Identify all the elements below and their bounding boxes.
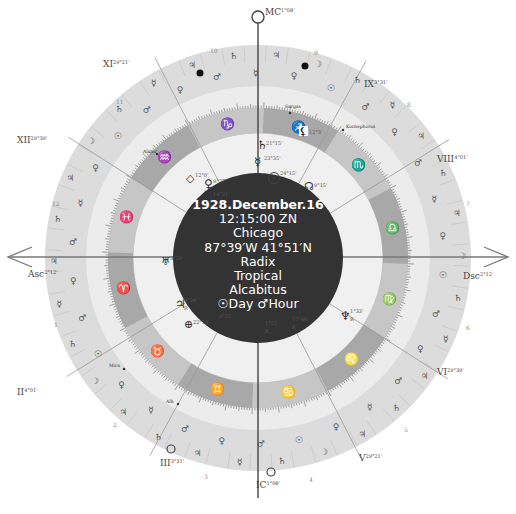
chart-type: Radix (173, 255, 343, 269)
outer-glyph: ♀ (417, 344, 424, 354)
svg-text:Kornephoros: Kornephoros (346, 124, 376, 129)
house-cusp-label-vi: VI29°39' (436, 367, 464, 377)
outer-glyph: ☿ (237, 457, 243, 467)
outer-glyph: ♃ (120, 407, 128, 417)
outer-glyph: ♂ (414, 158, 422, 168)
outer-glyph: ☉ (295, 435, 303, 445)
outer-glyph: ♀ (92, 163, 99, 173)
outer-glyph: ☽ (320, 447, 328, 457)
svg-text:Alh: Alh (165, 399, 174, 404)
outer-glyph: ♀ (439, 231, 446, 241)
outer-glyph: ♀ (177, 85, 184, 95)
outer-glyph: ♃ (188, 60, 196, 70)
outer-glyph: ♃ (358, 429, 366, 439)
house-number-2: 2 (113, 421, 117, 428)
outer-glyph: ♂ (143, 105, 151, 115)
svg-text:Mira: Mira (109, 363, 120, 368)
outer-glyph: ☉ (327, 83, 335, 93)
outer-glyph: ♄ (69, 339, 77, 349)
chart-place: Chicago (173, 226, 343, 240)
outer-glyph: ♃ (66, 173, 74, 183)
chart-date: 1928.December.16 (173, 198, 343, 212)
svg-text:12°3': 12°3' (309, 129, 322, 135)
svg-text:R: R (292, 324, 296, 330)
svg-text:9°15': 9°15' (219, 313, 232, 319)
house-cusp-label-xii: XII29°39' (17, 135, 47, 145)
sign-glyph-virgo: ♍ (382, 292, 397, 306)
svg-text:⚸: ⚸ (299, 125, 307, 138)
house-cusp-label-v: V29°21' (358, 453, 382, 463)
outer-glyph: ♀ (291, 71, 298, 81)
outer-glyph: ♀ (219, 436, 226, 446)
sign-glyph-libra: ♎ (385, 221, 400, 235)
outer-glyph: ☿ (367, 402, 373, 412)
outer-glyph: ☽ (91, 376, 99, 386)
outer-glyph: ♄ (439, 168, 447, 178)
outer-glyph: ♃ (194, 448, 202, 458)
outer-glyph: ☽ (458, 251, 466, 261)
outer-glyph: ♄ (454, 293, 462, 303)
house-number-11: 11 (116, 98, 124, 105)
sign-glyph-aries: ♈ (116, 281, 131, 295)
outer-glyph: ☿ (443, 334, 449, 344)
house-number-4: 4 (309, 476, 313, 483)
svg-text:1°22': 1°22' (265, 320, 278, 326)
house-number-8: 8 (407, 101, 411, 108)
svg-text:R: R (350, 316, 354, 322)
svg-text:Alnair: Alnair (142, 149, 158, 154)
outer-glyph: ♀ (70, 276, 77, 286)
outer-glyph: ♃ (417, 131, 425, 141)
svg-text:Sargas: Sargas (285, 104, 301, 109)
outer-glyph: ♂ (361, 102, 369, 112)
outer-glyph: ♃ (421, 371, 429, 381)
house-number-3: 3 (204, 473, 208, 480)
outer-glyph: ☉ (439, 270, 447, 280)
svg-text:⊕: ⊕ (184, 318, 193, 331)
outer-glyph: ☉ (114, 131, 122, 141)
outer-glyph: ♄ (278, 456, 286, 466)
sign-glyph-gemini: ♊ (210, 382, 225, 396)
outer-glyph: ♃ (272, 50, 280, 60)
outer-glyph: ♂ (181, 424, 189, 434)
mc-marker-icon (252, 11, 264, 23)
outer-glyph: ♄ (393, 403, 401, 413)
chart-info-panel: 1928.December.16 12:15:00 ZN Chicago 87°… (173, 198, 343, 312)
house-cusp-label-iii: III3°31' (160, 458, 184, 468)
house-number-5: 5 (404, 426, 408, 433)
sign-glyph-cancer: ♋ (281, 385, 296, 399)
house-number-7: 7 (466, 200, 470, 207)
sign-glyph-aquarius: ♒ (157, 150, 172, 164)
outer-glyph: ♂ (394, 376, 402, 386)
chart-day-hour: ☉Day ♂Hour (173, 297, 343, 311)
svg-text:◇: ◇ (186, 172, 195, 185)
outer-glyph: ♀ (391, 127, 398, 137)
svg-text:22°18': 22°18' (193, 319, 210, 325)
chart-time: 12:15:00 ZN (173, 212, 343, 226)
chart-coordinates: 87°39′W 41°51′N (173, 241, 343, 255)
chart-house-system: Alcabitus (173, 283, 343, 297)
outer-glyph: ☽ (87, 136, 95, 146)
outer-glyph: ♂ (432, 309, 440, 319)
outer-glyph: ♄ (230, 51, 238, 61)
house-number-12: 12 (52, 200, 60, 207)
house-cusp-label-xi: XI29°21' (103, 59, 130, 69)
svg-text:17°46': 17°46' (292, 316, 309, 322)
sign-glyph-scorpio: ♏ (351, 158, 366, 172)
outer-glyph: ☿ (390, 100, 396, 110)
sign-glyph-taurus: ♉ (150, 344, 165, 358)
black-marker-icon (197, 70, 204, 77)
outer-glyph: ♃ (50, 256, 58, 266)
outer-glyph: ☽ (314, 59, 322, 69)
house-number-9: 9 (314, 49, 318, 56)
svg-text:23°35': 23°35' (264, 155, 281, 161)
chart-zodiac: Tropical (173, 269, 343, 283)
outer-glyph: ♄ (154, 432, 162, 442)
outer-glyph: ☿ (148, 405, 154, 415)
outer-glyph: ☿ (151, 78, 157, 88)
svg-text:☊: ☊ (304, 180, 314, 193)
outer-glyph: ♄ (353, 75, 361, 85)
outer-glyph: ☉ (94, 349, 102, 359)
house-cusp-label-ii: II4°01' (17, 387, 38, 397)
house-number-10: 10 (210, 47, 218, 54)
sign-glyph-leo: ♌ (344, 352, 359, 366)
